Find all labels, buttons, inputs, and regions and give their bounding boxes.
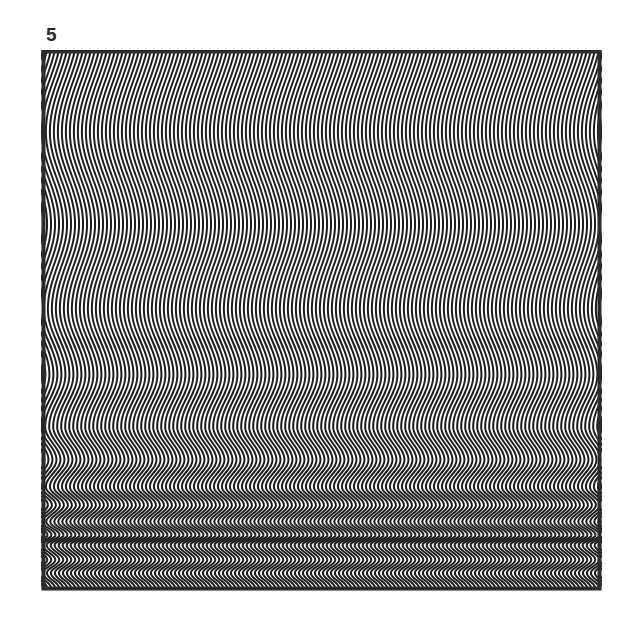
wavy-lines-pattern <box>41 50 602 591</box>
figure-number-label: 5 <box>46 25 57 44</box>
op-art-artwork <box>41 50 602 591</box>
